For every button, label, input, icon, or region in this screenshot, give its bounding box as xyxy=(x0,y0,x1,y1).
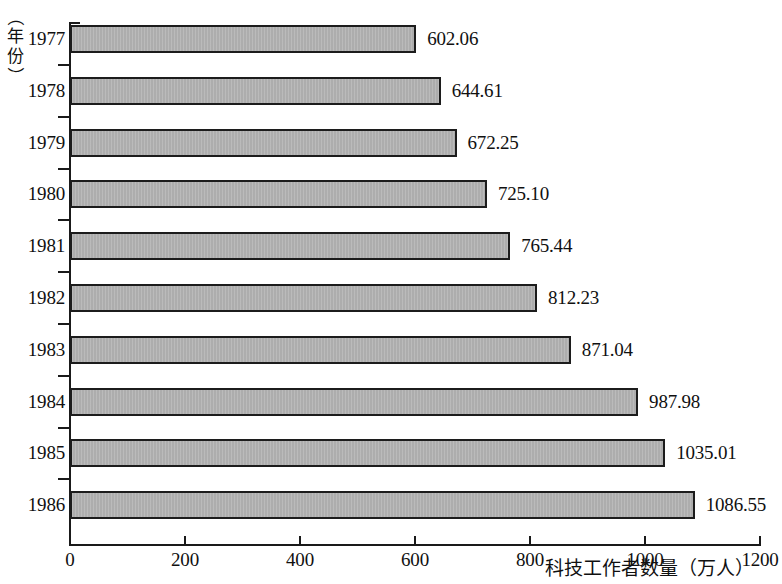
bar-value-label: 1035.01 xyxy=(676,442,736,464)
x-axis-tick xyxy=(299,536,301,545)
year-label: 1982 xyxy=(1,287,65,309)
x-axis-tick-label: 200 xyxy=(145,549,225,571)
bar xyxy=(70,232,510,260)
year-label: 1984 xyxy=(1,391,65,413)
bar xyxy=(70,25,416,53)
x-axis-tick xyxy=(644,536,646,545)
bar xyxy=(70,336,571,364)
year-label: 1985 xyxy=(1,442,65,464)
bar-value-label: 812.23 xyxy=(548,287,599,309)
bar xyxy=(70,388,638,416)
y-axis-tick xyxy=(58,168,70,170)
y-axis-tick xyxy=(58,427,70,429)
y-axis-tick xyxy=(58,271,70,273)
bar-value-label: 644.61 xyxy=(452,80,503,102)
bar-chart: （ 年 份 ） 602.06644.61672.25725.10765.4481… xyxy=(0,0,782,584)
bar xyxy=(70,129,457,157)
year-label: 1980 xyxy=(1,183,65,205)
year-label: 1979 xyxy=(1,132,65,154)
bar-value-label: 765.44 xyxy=(521,235,572,257)
bar xyxy=(70,439,665,467)
year-label: 1977 xyxy=(1,28,65,50)
year-label: 1983 xyxy=(1,339,65,361)
x-axis-tick xyxy=(184,536,186,545)
bar-value-label: 602.06 xyxy=(427,28,478,50)
bar-value-label: 1086.55 xyxy=(706,494,766,516)
y-axis-title-char-0: （ xyxy=(6,4,24,30)
y-axis-tick xyxy=(58,219,70,221)
y-axis-tick xyxy=(58,375,70,377)
y-axis-tick xyxy=(58,64,70,66)
bar xyxy=(70,180,487,208)
x-axis-tick-label: 600 xyxy=(375,549,455,571)
bar xyxy=(70,284,537,312)
y-axis-tick xyxy=(58,478,70,480)
y-axis-top-cap xyxy=(69,22,80,24)
bar-value-label: 672.25 xyxy=(468,132,519,154)
bar-value-label: 871.04 xyxy=(582,339,633,361)
y-axis-tick xyxy=(58,116,70,118)
x-axis-tick xyxy=(414,536,416,545)
year-label: 1986 xyxy=(1,494,65,516)
bar xyxy=(70,491,695,519)
year-label: 1978 xyxy=(1,80,65,102)
x-axis-tick-label: 400 xyxy=(260,549,340,571)
x-axis-tick xyxy=(759,536,761,545)
x-axis-title: 科技工作者数量（万人） xyxy=(545,557,754,580)
y-axis-tick xyxy=(58,323,70,325)
year-label: 1981 xyxy=(1,235,65,257)
bar-value-label: 987.98 xyxy=(649,391,700,413)
x-axis-tick-label: 0 xyxy=(30,549,110,571)
bar xyxy=(70,77,441,105)
bar-value-label: 725.10 xyxy=(498,183,549,205)
x-axis-tick xyxy=(529,536,531,545)
